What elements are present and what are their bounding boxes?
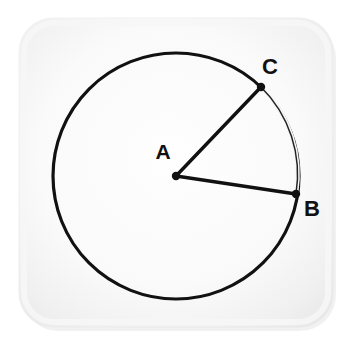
diagram-stage: A C B	[0, 0, 350, 343]
point-b-label: B	[304, 196, 320, 221]
point-b-dot	[292, 190, 300, 198]
point-c-dot	[257, 83, 265, 91]
point-a-dot	[172, 172, 180, 180]
point-a-label: A	[155, 140, 170, 163]
geometry-diagram: A C B	[0, 0, 350, 343]
point-c-label: C	[262, 54, 278, 79]
